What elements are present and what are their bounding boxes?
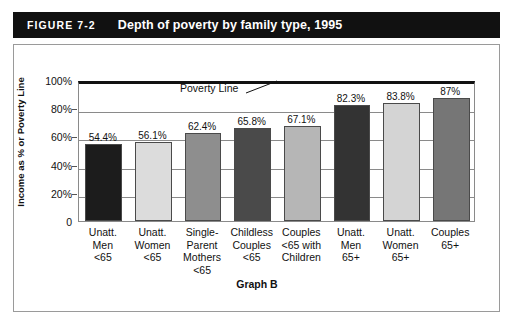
bar[interactable] <box>135 142 172 221</box>
y-tick-mark <box>72 109 77 110</box>
figure-root: FIGURE 7-2 Depth of poverty by family ty… <box>0 0 514 326</box>
bar-fill <box>234 128 271 221</box>
bar-fill <box>433 98 470 221</box>
figure-number-label: FIGURE 7-2 <box>27 19 96 31</box>
y-tick-label: 40% <box>32 161 72 171</box>
poverty-line-leader-icon <box>246 80 278 94</box>
bar-fill <box>135 142 172 221</box>
figure-title-label: Depth of poverty by family type, 1995 <box>118 18 343 32</box>
bar-fill <box>383 103 420 221</box>
y-tick-mark <box>72 166 77 167</box>
bar-fill <box>85 144 122 221</box>
plot-area <box>78 81 475 222</box>
bar[interactable] <box>284 126 321 221</box>
bar-value-label: 67.1% <box>269 114 333 125</box>
bar[interactable] <box>234 128 271 221</box>
bar-value-label: 87% <box>418 86 482 97</box>
y-tick-label: 80% <box>32 104 72 114</box>
y-tick-mark <box>72 194 77 195</box>
y-tick-label: 20% <box>32 189 72 199</box>
bar[interactable] <box>185 133 222 221</box>
bar-fill <box>334 105 371 221</box>
y-tick-label: 60% <box>32 132 72 142</box>
bar[interactable] <box>433 98 470 221</box>
graph-caption: Graph B <box>0 278 514 290</box>
x-axis-category-label: Couples 65+ <box>418 226 482 251</box>
y-tick-label: 0 <box>32 217 72 227</box>
bar[interactable] <box>334 105 371 221</box>
bar-fill <box>185 133 222 221</box>
bar[interactable] <box>383 103 420 221</box>
y-tick-label: 100% <box>32 76 72 86</box>
y-axis-title: Income as % or Poverty Line <box>14 62 28 222</box>
poverty-line-annotation: Poverty Line <box>180 82 238 94</box>
figure-header-bar: FIGURE 7-2 Depth of poverty by family ty… <box>13 12 500 38</box>
bar[interactable] <box>85 144 122 221</box>
bar-fill <box>284 126 321 221</box>
